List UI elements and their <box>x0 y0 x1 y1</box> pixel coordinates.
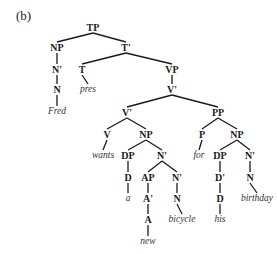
tree-node-ap: AP <box>141 173 154 183</box>
terminal-word-pres: pres <box>80 85 96 95</box>
edge-nbar2-nbar3 <box>162 161 177 172</box>
syntax-tree-figure: (b) TPNPT'N'TVPNpresV'FredV'PPVNPPNPwant… <box>0 0 277 254</box>
edge-t-pres <box>82 75 88 84</box>
edge-v-wants <box>103 140 107 150</box>
tree-node-nbar3: N' <box>172 173 182 183</box>
edge-np2-dp1 <box>128 140 146 150</box>
terminal-word-birthday: birthday <box>241 194 273 204</box>
tree-node-nbar1: N' <box>52 65 62 75</box>
edge-pp-np3 <box>218 118 237 129</box>
tree-node-tbar: T' <box>121 43 130 53</box>
tree-node-tp: TP <box>87 23 100 33</box>
terminal-word-for: for <box>193 151 204 161</box>
edge-vbar1-pp <box>172 95 218 107</box>
tree-node-dbar: D' <box>215 173 225 183</box>
edge-nbar2-ap <box>148 161 162 172</box>
edge-tp-np1 <box>57 33 93 42</box>
edge-tp-tbar <box>93 33 126 42</box>
terminal-word-new: new <box>140 237 155 247</box>
tree-node-vbar2: V' <box>122 108 132 118</box>
tree-node-abar: A' <box>143 194 153 204</box>
edge-tbar-t <box>82 53 126 64</box>
tree-node-np1: NP <box>50 43 63 53</box>
tree-node-n3: N <box>173 194 180 204</box>
edge-vbar2-v <box>107 118 127 129</box>
tree-node-nbar2: N' <box>157 151 167 161</box>
tree-node-np3: NP <box>230 130 243 140</box>
edge-np3-nbar4 <box>237 140 250 150</box>
tree-edges <box>0 0 277 254</box>
terminal-word-bicycle: bicycle <box>169 215 196 225</box>
tree-node-pp: PP <box>212 108 224 118</box>
edge-p-for <box>199 140 202 150</box>
tree-node-np2: NP <box>139 130 152 140</box>
terminal-word-his: his <box>214 215 225 225</box>
tree-node-d1: D <box>124 173 131 183</box>
tree-node-vbar1: V' <box>167 85 177 95</box>
edge-vbar2-np2 <box>127 118 146 129</box>
edge-vbar1-vbar2 <box>127 95 172 107</box>
tree-node-a: A <box>144 215 151 225</box>
tree-node-vp: VP <box>165 65 178 75</box>
edge-np3-dp2 <box>220 140 237 150</box>
edge-n3-bicycle <box>177 204 182 214</box>
edge-tbar-vp <box>126 53 172 64</box>
tree-node-n1: N <box>53 85 60 95</box>
tree-node-nbar4: N' <box>245 151 255 161</box>
terminal-word-wants: wants <box>92 151 114 161</box>
tree-node-d2: D <box>216 194 223 204</box>
terminal-word-fred: Fred <box>48 107 66 117</box>
tree-node-n4: N <box>246 173 253 183</box>
tree-node-p: P <box>199 130 205 140</box>
edge-np2-nbar2 <box>146 140 162 150</box>
tree-node-t: T <box>79 65 86 75</box>
tree-node-dp2: DP <box>213 151 226 161</box>
tree-node-v: V <box>103 130 110 140</box>
edge-pp-p <box>202 118 218 129</box>
edge-n4-birthday <box>250 183 257 193</box>
tree-node-dp1: DP <box>121 151 134 161</box>
terminal-word-a: a <box>126 194 131 204</box>
